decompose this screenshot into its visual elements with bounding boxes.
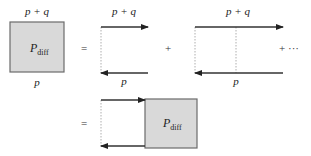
equals-sign-row2: = xyxy=(81,117,87,129)
term2-diagram: p + q p xyxy=(195,5,283,87)
diagram-canvas: p + q Pdiff p = p + q p + p + q p + ··· … xyxy=(0,0,311,156)
pdiff-box-row1: p + q Pdiff p xyxy=(10,5,64,88)
term1-top-label: p + q xyxy=(111,5,136,17)
term2-top-label: p + q xyxy=(225,5,250,17)
row2-diagram: Pdiff xyxy=(101,99,197,148)
box-top-label: p + q xyxy=(24,5,49,17)
plus-sign: + xyxy=(165,42,171,54)
equals-sign-row1: = xyxy=(81,42,87,54)
plus-ellipsis: + ··· xyxy=(279,42,299,54)
term1-diagram: p + q p xyxy=(101,5,148,87)
term2-bottom-label: p xyxy=(232,75,239,87)
term1-bottom-label: p xyxy=(120,75,127,87)
box-bottom-label: p xyxy=(33,76,40,88)
